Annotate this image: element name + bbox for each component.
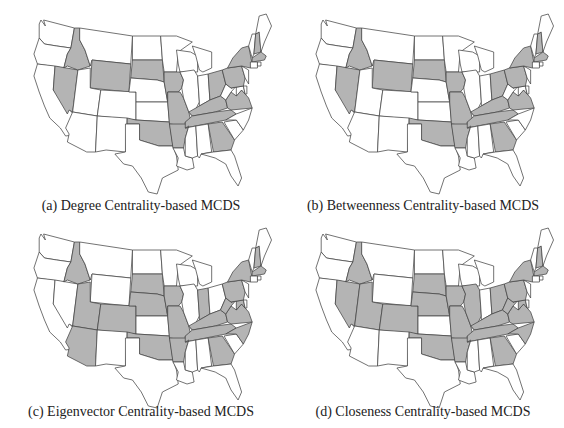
state-ct [250, 62, 257, 68]
state-az [348, 326, 380, 366]
panel-d: (d) Closeness Centrality-based MCDS [282, 214, 564, 428]
state-fl [201, 150, 241, 186]
state-ks [136, 316, 169, 336]
state-wi [176, 50, 197, 72]
panel-a: (a) Degree Centrality-based MCDS [0, 0, 282, 214]
state-ks [418, 102, 451, 122]
state-ks [418, 316, 451, 336]
state-ri [539, 276, 543, 280]
state-nm [96, 116, 128, 152]
state-nm [378, 330, 410, 366]
us-map-b [282, 0, 564, 195]
state-ms [185, 340, 197, 372]
state-co [379, 90, 418, 120]
us-map-a [0, 0, 282, 195]
caption-a: (a) Degree Centrality-based MCDS [0, 198, 282, 214]
us-map-d [282, 214, 564, 409]
state-co [97, 304, 136, 334]
state-ms [467, 340, 479, 372]
state-az [348, 112, 380, 152]
state-wy [372, 274, 412, 306]
state-az [66, 326, 98, 366]
state-az [66, 112, 98, 152]
panel-b: (b) Betweenness Centrality-based MCDS [282, 0, 564, 214]
state-ct [532, 62, 539, 68]
state-ny [510, 260, 535, 282]
state-fl [483, 364, 523, 400]
state-ct [250, 276, 257, 282]
state-co [97, 90, 136, 120]
panel-c: (c) Eigenvector Centrality-based MCDS [0, 214, 282, 428]
caption-b: (b) Betweenness Centrality-based MCDS [282, 198, 564, 214]
state-ny [228, 46, 253, 68]
state-nd [132, 36, 162, 60]
state-ny [228, 260, 253, 282]
state-wy [372, 60, 412, 92]
state-fl [201, 364, 241, 400]
state-wy [90, 274, 130, 306]
state-nm [96, 330, 128, 366]
state-wi [176, 264, 197, 286]
state-nd [414, 36, 444, 60]
caption-c: (c) Eigenvector Centrality-based MCDS [0, 404, 282, 420]
state-ri [539, 62, 543, 66]
caption-d: (d) Closeness Centrality-based MCDS [282, 404, 564, 420]
state-ri [257, 276, 261, 280]
state-ks [136, 102, 169, 122]
state-ms [185, 126, 197, 158]
state-ms [467, 126, 479, 158]
state-nd [132, 250, 162, 274]
state-nd [414, 250, 444, 274]
us-map-c [0, 214, 282, 409]
state-co [379, 304, 418, 334]
state-ri [257, 62, 261, 66]
state-nm [378, 116, 410, 152]
state-fl [483, 150, 523, 186]
state-ct [532, 276, 539, 282]
state-wi [458, 50, 479, 72]
state-wy [90, 60, 130, 92]
state-ny [510, 46, 535, 68]
state-wi [458, 264, 479, 286]
